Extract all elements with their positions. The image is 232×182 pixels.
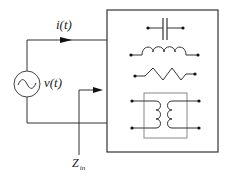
current-arrow-icon bbox=[60, 37, 72, 43]
impedance-label-main: Z bbox=[72, 156, 79, 170]
bottom-wire bbox=[27, 97, 107, 123]
top-wire bbox=[27, 40, 107, 71]
inductor-icon bbox=[129, 47, 199, 57]
zin-arrow-icon bbox=[93, 87, 103, 93]
voltage-label: v(t) bbox=[44, 75, 62, 91]
resistor-icon bbox=[133, 68, 196, 80]
circuit-svg bbox=[0, 0, 232, 182]
ac-source-icon bbox=[14, 71, 40, 97]
impedance-label-subscript: in bbox=[80, 164, 85, 172]
current-label: i(t) bbox=[56, 17, 72, 33]
capacitor-icon bbox=[146, 18, 184, 40]
transformer-icon bbox=[130, 93, 200, 138]
impedance-label: Zin bbox=[72, 156, 85, 172]
circuit-diagram: i(t) v(t) Zin bbox=[0, 0, 232, 182]
